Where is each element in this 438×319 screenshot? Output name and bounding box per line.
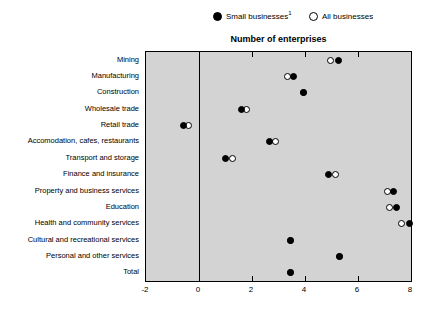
category-axis: MiningManufacturingConstructionWholesale… [0, 51, 142, 282]
data-point [287, 269, 294, 276]
data-point [300, 89, 307, 96]
category-label: Property and business services [0, 186, 139, 195]
category-label: Total [0, 267, 139, 276]
x-axis-tick [305, 52, 306, 57]
x-axis-tick [358, 276, 359, 281]
category-label: Transport and storage [0, 153, 139, 162]
category-label: Finance and insurance [0, 169, 139, 178]
x-axis-tick [252, 276, 253, 281]
data-point [180, 122, 187, 129]
data-point [272, 138, 279, 145]
data-point [325, 171, 332, 178]
x-tick-label: 0 [188, 285, 208, 295]
chart-legend: Small businesses1 All businesses [0, 12, 438, 26]
chart-title: Number of enterprises [145, 34, 412, 45]
data-point [229, 155, 236, 162]
x-tick-label: 6 [347, 285, 367, 295]
x-tick-label: 8 [400, 285, 420, 295]
legend-footnote-marker: 1 [288, 10, 291, 16]
legend-item-small-businesses: Small businesses1 [213, 12, 292, 21]
data-point [287, 237, 294, 244]
data-point [222, 155, 229, 162]
category-label: Cultural and recreational services [0, 235, 139, 244]
data-point [290, 73, 297, 80]
filled-circle-icon [213, 12, 222, 21]
legend-item-all-businesses: All businesses [309, 12, 373, 21]
category-label: Health and community services [0, 218, 139, 227]
data-point [266, 138, 273, 145]
category-label: Construction [0, 87, 139, 96]
data-point [390, 188, 397, 195]
category-label: Mining [0, 55, 139, 64]
x-tick-label: -2 [135, 285, 155, 295]
category-label: Wholesale trade [0, 104, 139, 113]
category-label: Accomodation, cafes, restaurants [0, 136, 139, 145]
x-axis-tick [358, 52, 359, 57]
data-point [335, 57, 342, 64]
zero-reference-line [199, 52, 200, 281]
legend-label-all-businesses: All businesses [322, 12, 373, 21]
x-tick-label: 4 [294, 285, 314, 295]
category-label: Education [0, 202, 139, 211]
category-label: Manufacturing [0, 71, 139, 80]
x-axis-tick [252, 52, 253, 57]
data-point [393, 204, 400, 211]
x-axis-tick [305, 276, 306, 281]
data-point [406, 220, 413, 227]
plot-area [145, 51, 412, 282]
data-point [398, 220, 405, 227]
x-axis-tick-labels: -202468 [145, 285, 412, 297]
category-label: Retail trade [0, 120, 139, 129]
data-point [327, 57, 334, 64]
legend-label-small-businesses: Small businesses1 [226, 12, 292, 21]
x-tick-label: 2 [241, 285, 261, 295]
data-point [336, 253, 343, 260]
open-circle-icon [309, 12, 318, 21]
data-point [332, 171, 339, 178]
data-point [238, 106, 245, 113]
category-label: Personal and other services [0, 251, 139, 260]
